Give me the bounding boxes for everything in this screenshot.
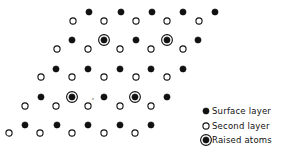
surface-atom-icon <box>117 122 123 128</box>
second-layer-atom-icon <box>117 46 123 52</box>
legend-second-layer-atom-icon <box>203 123 209 129</box>
surface-atom-icon <box>53 66 59 72</box>
second-layer-atom-icon <box>85 103 91 109</box>
second-layer-atom-icon <box>196 18 202 24</box>
legend-markers <box>201 108 212 146</box>
surface-atom-icon <box>86 9 92 15</box>
second-layer-atom-icon <box>164 74 170 80</box>
second-layer-atom-icon <box>70 18 76 24</box>
second-layer-atom-icon <box>53 103 59 109</box>
surface-atom-icon <box>117 66 123 72</box>
surface-atom-icon <box>118 9 124 15</box>
surface-atom-icon <box>180 9 186 15</box>
surface-atom-icon <box>54 122 60 128</box>
annotations: ' <box>92 97 94 105</box>
second-layer-atom-icon <box>69 130 75 136</box>
raised-atom-icon <box>69 94 75 100</box>
second-layer-atom-icon <box>117 103 123 109</box>
second-layer-atom-icon <box>6 130 12 136</box>
raised-atom-icon <box>164 37 170 43</box>
raised-atom-icon <box>132 94 138 100</box>
surface-atom-icon <box>133 37 139 43</box>
surface-atom-icon <box>164 94 170 100</box>
second-layer-atom-icon <box>37 130 43 136</box>
second-layer-atom-icon <box>22 103 28 109</box>
legend-surface-atom-icon <box>203 108 209 114</box>
surface-atom-icon <box>148 122 154 128</box>
legend-label-surface-layer: Surface layer <box>212 106 271 116</box>
surface-atom-icon <box>148 66 154 72</box>
surface-atom-icon <box>212 9 218 15</box>
surface-atom-icon <box>22 122 28 128</box>
legend-raised-atom-icon <box>203 137 209 143</box>
second-layer-atom-icon <box>133 74 139 80</box>
surface-atom-icon <box>69 37 75 43</box>
second-layer-atom-icon <box>180 46 186 52</box>
surface-layer-atoms <box>22 9 218 128</box>
surface-atom-icon <box>85 66 91 72</box>
second-layer-atom-icon <box>101 74 107 80</box>
surface-atom-icon <box>85 122 91 128</box>
second-layer-atom-icon <box>132 130 138 136</box>
surface-atom-icon <box>38 94 44 100</box>
second-layer-atom-icon <box>101 18 107 24</box>
second-layer-atom-icon <box>164 18 170 24</box>
second-layer-atom-icon <box>148 46 154 52</box>
surface-atom-icon <box>195 37 201 43</box>
legend-label-second-layer: Second layer <box>212 121 270 131</box>
second-layer-atom-icon <box>69 74 75 80</box>
second-layer-atom-icon <box>38 74 44 80</box>
second-layer-atom-icon <box>85 46 91 52</box>
second-layer-atom-icon <box>148 103 154 109</box>
surface-atom-icon <box>180 66 186 72</box>
legend-label-raised-atoms: Raised atoms <box>212 135 272 145</box>
second-layer-atom-icon <box>54 46 60 52</box>
raised-atom-icon <box>101 37 107 43</box>
surface-atom-icon <box>101 94 107 100</box>
prime-mark-annotation: ' <box>92 97 94 105</box>
second-layer-atom-icon <box>133 18 139 24</box>
second-layer-atom-icon <box>101 130 107 136</box>
surface-atom-icon <box>149 9 155 15</box>
